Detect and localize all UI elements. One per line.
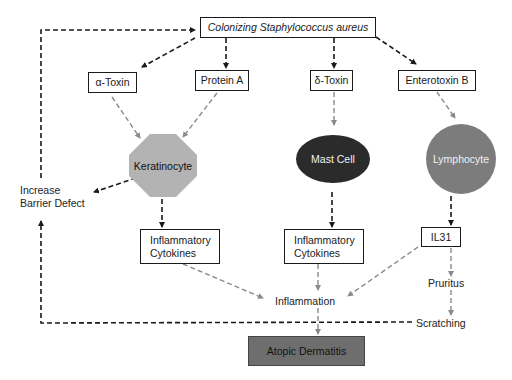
inflammatory-cytokines-mid-node: Inflammatory Cytokines — [284, 229, 364, 264]
edge-enterotoxin-lympho — [437, 92, 455, 118]
alpha-toxin-node: α-Toxin — [88, 72, 137, 93]
cytokines-mid-line2: Cytokines — [294, 247, 340, 260]
edge-proteina-kera — [183, 93, 217, 137]
cytokines-mid-line1: Inflammatory — [294, 234, 355, 247]
enterotoxin-b-label: Enterotoxin B — [405, 74, 468, 87]
protein-a-label: Protein A — [201, 74, 244, 87]
inflammation-label: Inflammation — [275, 295, 335, 308]
il31-node: IL31 — [421, 227, 461, 247]
atopic-dermatitis-label: Atopic Dermatitis — [267, 345, 346, 357]
lymphocyte-label: Lymphocyte — [433, 153, 489, 165]
colonizing-s-aureus-node: Colonizing Staphylococcus aureus — [200, 17, 376, 38]
atopic-dermatitis-node: Atopic Dermatitis — [248, 336, 365, 366]
edge-sa-enterotoxin — [376, 37, 416, 64]
colonizing-s-aureus-label: Colonizing Staphylococcus aureus — [208, 21, 369, 34]
edge-cytokines-inflammation — [183, 264, 263, 298]
keratinocyte-node: Keratinocyte — [129, 134, 197, 197]
pruritus-label: Pruritus — [428, 277, 464, 290]
alpha-toxin-label: α-Toxin — [95, 76, 129, 89]
delta-toxin-node: δ-Toxin — [310, 70, 353, 91]
delta-toxin-label: δ-Toxin — [315, 74, 349, 87]
mast-cell-node: Mast Cell — [296, 135, 370, 183]
inflammatory-cytokines-left-node: Inflammatory Cytokines — [140, 229, 220, 264]
protein-a-node: Protein A — [195, 70, 249, 91]
edge-sa-alpha — [142, 38, 195, 67]
edge-alpha-kera — [112, 97, 140, 138]
cytokines-left-line1: Inflammatory — [150, 234, 211, 247]
scratching-label: Scratching — [416, 317, 466, 330]
il31-label: IL31 — [431, 231, 451, 244]
barrier-line1: Increase — [20, 184, 85, 197]
barrier-line2: Barrier Defect — [20, 197, 85, 210]
lymphocyte-node: Lymphocyte — [426, 124, 496, 194]
enterotoxin-b-node: Enterotoxin B — [398, 70, 476, 91]
increase-barrier-defect-label: Increase Barrier Defect — [20, 184, 85, 210]
cytokines-left-line2: Cytokines — [150, 247, 196, 260]
mast-cell-label: Mast Cell — [311, 153, 355, 165]
keratinocyte-label: Keratinocyte — [134, 160, 192, 172]
